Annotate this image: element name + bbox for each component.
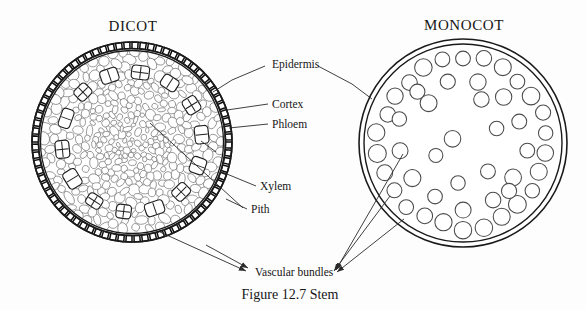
dicot-panel: DICOT	[32, 18, 243, 242]
cortex-leader	[227, 104, 268, 110]
pith-leader-tick	[226, 199, 247, 209]
stem-cross-section-figure: DICOT MONOCOT	[0, 0, 586, 310]
label-epidermis: Epidermis	[272, 58, 320, 71]
dicot-heading: DICOT	[109, 18, 158, 34]
epidermis-leader-monocot	[318, 66, 372, 99]
figure-caption: Figure 12.7 Stem	[242, 287, 339, 302]
vascular-bundles-arrow-dicot-2	[206, 245, 248, 268]
vascular-bundles-arrow-monocot-3	[337, 219, 404, 272]
label-xylem: Xylem	[260, 180, 291, 193]
vascular-bundles-arrow-monocot-2	[334, 196, 390, 271]
label-vascular-bundles: Vascular bundles	[255, 266, 334, 278]
epidermis-leader-dicot	[213, 66, 265, 92]
label-phloem: Phloem	[272, 118, 307, 130]
vascular-bundles-arrow-dicot-1	[160, 232, 246, 271]
phloem-leader	[229, 124, 268, 128]
callout-labels: Epidermis Cortex Phloem Xylem Pith Vascu…	[251, 58, 334, 278]
xylem-leader	[222, 172, 256, 186]
figure-page: DICOT MONOCOT	[0, 0, 586, 310]
monocot-heading: MONOCOT	[424, 17, 504, 33]
monocot-panel: MONOCOT	[359, 17, 567, 247]
label-pith: Pith	[251, 203, 270, 215]
label-cortex: Cortex	[272, 98, 304, 110]
